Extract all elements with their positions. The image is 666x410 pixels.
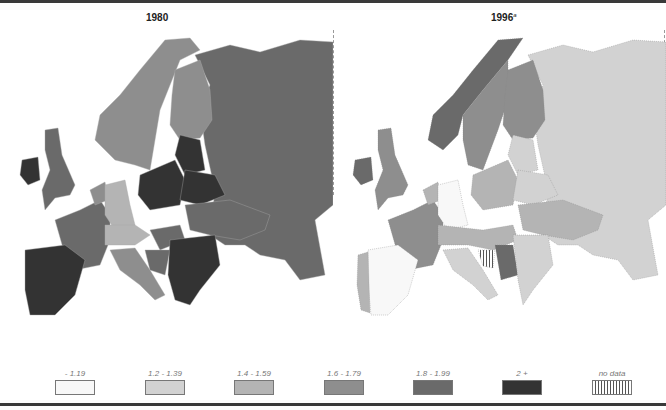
region-ireland [20,157,40,185]
region-spain [368,245,418,315]
legend: - 1.19 1.2 - 1.39 1.4 - 1.59 1.6 - 1.79 … [0,368,666,398]
region-portugal [357,252,370,313]
region-bosnia [478,250,495,268]
bottom-rule [0,403,666,406]
legend-item: - 1.19 [53,368,97,395]
legend-swatch [145,380,185,395]
legend-swatch [502,380,542,395]
top-rule [0,0,666,3]
legend-label: 1.2 - 1.39 [143,368,187,379]
region-austria-swiss [105,225,150,245]
map-1996 [333,30,666,330]
legend-label: 1.4 - 1.59 [232,368,276,379]
legend-swatch-no-data [592,380,632,395]
legend-label: - 1.19 [53,368,97,379]
legend-swatch [413,380,453,395]
region-uk [42,128,75,210]
legend-item: 1.2 - 1.39 [143,368,187,395]
footnote-marker: a [513,12,516,18]
map-1980 [0,30,333,330]
legend-item: 1.8 - 1.99 [411,368,455,395]
legend-label: 2 + [500,368,544,379]
map-title-1996: 1996a [491,12,517,23]
legend-item: 2 + [500,368,544,395]
legend-item: no data [590,368,634,395]
legend-swatch [324,380,364,395]
legend-label: 1.6 - 1.79 [322,368,366,379]
region-balkans-east [513,235,553,305]
region-balkans-east [168,235,220,305]
map-title-1980: 1980 [146,12,168,23]
legend-item: 1.4 - 1.59 [232,368,276,395]
legend-swatch [55,380,95,395]
region-iberia [25,245,85,315]
region-uk [375,128,408,210]
legend-swatch [234,380,274,395]
legend-label: no data [590,368,634,379]
region-ireland [353,157,373,185]
legend-item: 1.6 - 1.79 [322,368,366,395]
legend-label: 1.8 - 1.99 [411,368,455,379]
